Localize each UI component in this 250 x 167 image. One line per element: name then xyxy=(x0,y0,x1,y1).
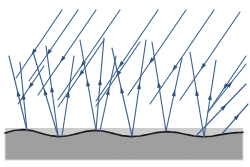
rough-surface-block xyxy=(5,128,243,160)
diffuse-reflection-figure xyxy=(0,0,250,167)
diagram-canvas xyxy=(0,0,250,167)
